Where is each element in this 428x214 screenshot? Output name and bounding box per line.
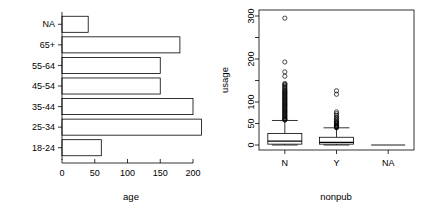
boxplot-series (268, 16, 405, 145)
bar-value-tick-label: 0 (59, 168, 64, 178)
bar-45-54 (62, 78, 160, 94)
boxplot-category-label-n: N (282, 158, 289, 168)
boxplot-y-tick-label: 100 (246, 94, 256, 109)
figure-canvas: 18-2425-3435-4445-5455-6465+NA 050100150… (0, 0, 428, 214)
bar-55-64 (62, 57, 160, 73)
barplot-graphic: 18-2425-3435-4445-5455-6465+NA 050100150… (0, 0, 214, 214)
bar-na (62, 16, 88, 32)
bar-category-label: 35-44 (32, 102, 55, 112)
bar-category-label: 55-64 (32, 61, 55, 71)
bar-category-label: NA (42, 19, 55, 29)
boxplot-panel: 050100200300 NYNA usage nonpub (214, 0, 428, 214)
boxplot-category-label-y: Y (333, 158, 339, 168)
boxplot-category-axis: NYNA (282, 150, 395, 168)
barplot-svg-wrapper: 18-2425-3435-4445-5455-6465+NA 050100150… (0, 0, 214, 214)
box-group-n-outlier (283, 60, 287, 64)
bar-35-44 (62, 99, 193, 115)
box-group-n-iqr-box (268, 133, 302, 144)
boxplot-graphic: 050100200300 NYNA usage nonpub (214, 0, 428, 214)
boxplot-y-tick-label: 200 (246, 51, 256, 66)
bar-category-axis: 18-2425-3435-4445-5455-6465+NA (32, 12, 62, 160)
boxplot-y-axis: 050100200300 (246, 8, 259, 147)
boxplot-category-label-na: NA (382, 158, 395, 168)
boxplot-svg-wrapper: 050100200300 NYNA usage nonpub (214, 0, 428, 214)
boxplot-y-axis-title: usage (219, 67, 230, 93)
bar-category-label: 45-54 (32, 81, 55, 91)
bar-category-label: 25-34 (32, 122, 55, 132)
box-group-y (320, 89, 354, 145)
bar-series (62, 16, 202, 155)
bar-value-tick-label: 150 (153, 168, 168, 178)
bar-18-24 (62, 140, 101, 156)
box-group-n (268, 16, 302, 145)
boxplot-y-tick-label: 50 (246, 118, 256, 128)
box-group-n-outlier (283, 74, 287, 78)
bar-25-34 (62, 119, 202, 135)
bar-category-label: 65+ (40, 40, 55, 50)
boxplot-y-tick-label: 300 (246, 8, 256, 23)
barplot-panel: 18-2425-3435-4445-5455-6465+NA 050100150… (0, 0, 214, 214)
bar-value-tick-label: 200 (185, 168, 200, 178)
bar-category-label: 18-24 (32, 143, 55, 153)
boxplot-y-tick-label: 0 (246, 142, 256, 147)
box-group-n-outlier (283, 16, 287, 20)
barplot-x-axis-title: age (123, 191, 139, 202)
bar-value-tick-label: 100 (120, 168, 135, 178)
boxplot-x-axis-title: nonpub (320, 191, 352, 202)
bar-value-tick-label: 50 (90, 168, 100, 178)
bar-65- (62, 37, 180, 53)
box-group-n-outlier (283, 70, 287, 74)
bar-value-axis: 050100150200 (59, 159, 200, 178)
